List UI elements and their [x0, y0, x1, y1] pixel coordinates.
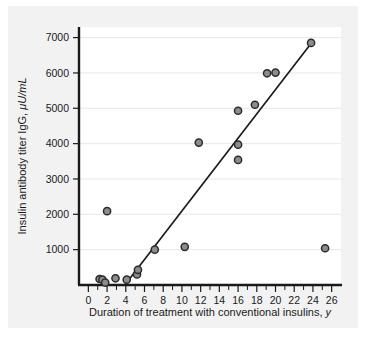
- data-point: [102, 279, 109, 286]
- x-tick-label: 4: [123, 294, 129, 306]
- data-point: [251, 101, 258, 108]
- x-tick-label: 20: [270, 294, 282, 306]
- x-tick-label: 24: [307, 294, 319, 306]
- data-point: [263, 70, 270, 77]
- data-point: [151, 246, 158, 253]
- x-axis-title: Duration of treatment with conventional …: [89, 306, 333, 318]
- data-point: [123, 276, 130, 283]
- data-point: [321, 245, 328, 252]
- y-tick-label: 2000: [46, 208, 70, 220]
- data-point: [112, 275, 119, 282]
- x-tick-label: 0: [85, 294, 91, 306]
- x-tick-label: 10: [176, 294, 188, 306]
- data-point: [272, 69, 279, 76]
- y-axis-title: Insulin antibody titer IgG, μU/mL: [16, 77, 28, 234]
- x-tick-label: 6: [142, 294, 148, 306]
- data-point: [234, 141, 241, 148]
- x-tick-label: 14: [214, 294, 226, 306]
- data-point: [307, 39, 314, 46]
- chart-scatter-plot: 1000200030004000500060007000 02468101214…: [0, 0, 366, 339]
- data-point: [181, 243, 188, 250]
- x-tick-label: 26: [326, 294, 338, 306]
- x-tick-label: 12: [195, 294, 207, 306]
- x-tick-label: 22: [288, 294, 300, 306]
- plot-panel: [79, 27, 341, 285]
- y-tick-label: 4000: [46, 137, 70, 149]
- x-tick-label: 2: [104, 294, 110, 306]
- data-point: [234, 156, 241, 163]
- data-point: [103, 208, 110, 215]
- x-tick-label: 16: [232, 294, 244, 306]
- x-tick-label: 18: [251, 294, 263, 306]
- figure-container: 1000200030004000500060007000 02468101214…: [0, 0, 366, 339]
- data-point: [134, 266, 141, 273]
- y-tick-label: 1000: [46, 243, 70, 255]
- y-tick-label: 5000: [46, 102, 70, 114]
- y-tick-label: 7000: [46, 31, 70, 43]
- x-tick-labels: 02468101214161820222426: [85, 294, 337, 306]
- x-tick-marks: [88, 286, 331, 292]
- x-tick-label: 8: [160, 294, 166, 306]
- y-tick-label: 3000: [46, 173, 70, 185]
- data-point: [234, 107, 241, 114]
- y-tick-label: 6000: [46, 67, 70, 79]
- chart-svg: 1000200030004000500060007000 02468101214…: [0, 0, 366, 339]
- y-tick-labels: 1000200030004000500060007000: [46, 31, 70, 255]
- data-point: [195, 139, 202, 146]
